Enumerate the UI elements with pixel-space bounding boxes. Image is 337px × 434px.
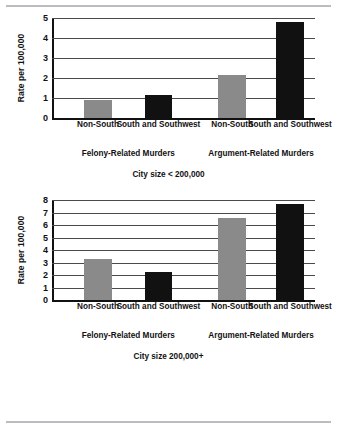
chart-2-group-labels: Felony-Related MurdersArgument-Related M… [52, 331, 315, 343]
bar [276, 204, 304, 300]
x-category-label: South and Southwest [116, 302, 200, 312]
y-tick-label-4: 4 [43, 246, 48, 255]
x-group-label: Argument-Related Murders [182, 149, 337, 158]
chart-city-size-under-200k: Rate per 100,000 012345 Non-SouthSouth a… [0, 18, 337, 118]
chart-1-title: City size < 200,000 [0, 170, 337, 179]
chart-1-category-labels: Non-SouthSouth and SouthwestNon-SouthSou… [52, 120, 315, 144]
figure-page: Rate per 100,000 012345 Non-SouthSouth a… [0, 0, 337, 434]
y-tick-label-5: 5 [43, 233, 48, 242]
bar [145, 272, 173, 300]
y-tick-label-4: 4 [43, 34, 48, 43]
chart-1-y-axis-title-text: Rate per 100,000 [16, 34, 26, 103]
y-tick-label-1: 1 [43, 94, 48, 103]
chart-2-y-axis-title: Rate per 100,000 [14, 200, 28, 300]
y-tick-label-3: 3 [43, 258, 48, 267]
chart-2-bars [52, 200, 315, 300]
bar [145, 95, 173, 118]
chart-city-size-over-200k: Rate per 100,000 012345678 Non-SouthSout… [0, 200, 337, 300]
chart-2-plot-body: Rate per 100,000 012345678 [0, 200, 337, 300]
x-category-label: South and Southwest [248, 302, 332, 312]
y-tick-label-3: 3 [43, 54, 48, 63]
chart-1-plot-area: 012345 [52, 18, 315, 118]
chart-2-plot-area: 012345678 [52, 200, 315, 300]
chart-1-bars [52, 18, 315, 118]
y-tick-label-8: 8 [43, 196, 48, 205]
y-tick-label-0: 0 [43, 296, 48, 305]
bar [84, 259, 112, 300]
y-tick-label-7: 7 [43, 208, 48, 217]
bar [218, 218, 246, 301]
chart-1-group-labels: Felony-Related MurdersArgument-Related M… [52, 149, 315, 161]
y-tick-label-2: 2 [43, 271, 48, 280]
bar [84, 100, 112, 118]
y-tick-label-6: 6 [43, 221, 48, 230]
y-tick-label-5: 5 [43, 14, 48, 23]
bar [276, 22, 304, 118]
chart-1-y-axis-title: Rate per 100,000 [14, 18, 28, 118]
y-tick-label-0: 0 [43, 114, 48, 123]
y-tick-label-2: 2 [43, 74, 48, 83]
x-group-label: Argument-Related Murders [182, 331, 337, 340]
top-divider-rule [6, 5, 331, 7]
bar [218, 75, 246, 118]
chart-1-plot-body: Rate per 100,000 012345 [0, 18, 337, 118]
x-category-label: South and Southwest [248, 120, 332, 130]
chart-2-title: City size 200,000+ [0, 352, 337, 361]
bottom-divider-rule [6, 421, 331, 423]
y-tick-label-1: 1 [43, 283, 48, 292]
chart-2-category-labels: Non-SouthSouth and SouthwestNon-SouthSou… [52, 302, 315, 326]
chart-2-y-axis-title-text: Rate per 100,000 [16, 216, 26, 285]
x-category-label: South and Southwest [116, 120, 200, 130]
